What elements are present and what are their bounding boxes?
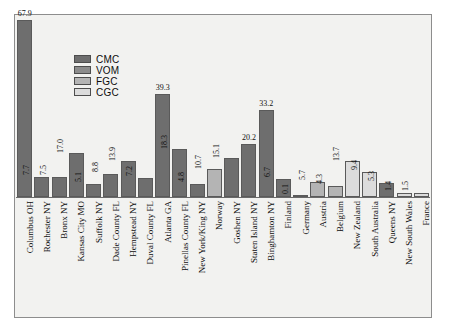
category-label-kansas-city-mo: Kansas City MO — [69, 199, 84, 317]
legend-swatch-icon — [74, 88, 91, 96]
category-label-text: New Zealand — [352, 201, 362, 249]
bar-norway[interactable]: 10.7 — [207, 14, 222, 197]
legend-swatch-icon — [74, 66, 91, 74]
category-label-goshen-ny: Goshen NY — [224, 199, 239, 317]
bar-austria[interactable]: 5.7 — [310, 14, 325, 197]
category-label-text: Atlanta GA — [163, 201, 173, 243]
bar-value-label: 6.7 — [263, 167, 283, 177]
category-axis-labels: Columbus OHRochester NYBronx NYKansas Ci… — [16, 199, 430, 317]
category-label-germany: Germany — [293, 199, 308, 317]
legend-item-vom[interactable]: VOM — [74, 65, 164, 75]
bar-france[interactable]: 1.5 — [414, 14, 429, 197]
category-label-hempstead-ny: Hempstead NY — [121, 199, 136, 317]
category-label-text: Staten Island NY — [249, 201, 259, 263]
bar-new-york-king-ny[interactable]: 4.8 — [190, 14, 205, 197]
category-label-text: Pinellas County FL — [180, 201, 190, 271]
bar-rect — [52, 177, 67, 197]
bar-rect — [328, 186, 343, 197]
category-label-pinellas-county-fl: Pinellas County FL — [172, 199, 187, 317]
category-label-text: South Australia — [370, 201, 380, 257]
bar-duval-county-fl[interactable]: 7.2 — [138, 14, 153, 197]
bar-value-label: 5.1 — [74, 172, 94, 182]
bar-series-container: 67.97.77.517.05.18.813.97.239.318.34.810… — [16, 14, 430, 197]
category-label-finland: Finland — [276, 199, 291, 317]
category-label-text: New York/King NY — [197, 201, 207, 273]
category-label-text: Rochester NY — [42, 201, 52, 252]
bar-rect — [414, 193, 429, 197]
category-label-text: Duval County FL — [145, 201, 155, 265]
category-label-south-australia: South Australia — [362, 199, 377, 317]
bar-value-label: 0.1 — [281, 184, 301, 194]
bar-value-label: 4.8 — [177, 172, 197, 182]
category-label-columbus-oh: Columbus OH — [17, 199, 32, 317]
bar-goshen-ny[interactable]: 15.1 — [224, 14, 239, 197]
bar-value-label: 67.9 — [18, 9, 32, 18]
category-label-binghamton-ny: Binghamton NY — [259, 199, 274, 317]
bar-value-label: 5.3 — [367, 171, 387, 181]
bar-value-label: 13.9 — [108, 147, 128, 161]
bar-bronx-ny[interactable]: 7.5 — [52, 14, 67, 197]
category-label-text: Belgium — [335, 201, 345, 232]
bar-value-label: 18.3 — [160, 135, 180, 149]
bar-value-label: 20.2 — [242, 133, 256, 142]
bar-rect — [241, 144, 256, 197]
bar-pinellas-county-fl[interactable]: 18.3 — [172, 14, 187, 197]
bar-kansas-city-mo[interactable]: 17.0 — [69, 14, 84, 197]
bar-queens-ny[interactable]: 5.3 — [379, 14, 394, 197]
legend-swatch-icon — [74, 77, 91, 85]
category-label-new-zealand: New Zealand — [345, 199, 360, 317]
bar-rect — [103, 174, 118, 197]
legend-label: CGC — [96, 87, 119, 98]
bar-value-label: 1.5 — [401, 181, 421, 191]
bar-atlanta-ga[interactable]: 39.3 — [155, 14, 170, 197]
category-label-text: Queens NY — [387, 201, 397, 243]
category-label-rochester-ny: Rochester NY — [34, 199, 49, 317]
bar-new-south-wales[interactable]: 1.4 — [397, 14, 412, 197]
category-label-text: France — [421, 201, 431, 226]
bar-staten-island-ny[interactable]: 20.2 — [241, 14, 256, 197]
legend-item-cmc[interactable]: CMC — [74, 54, 164, 64]
bar-finland[interactable]: 6.7 — [276, 14, 291, 197]
category-label-text: Dade County FL — [111, 201, 121, 262]
category-label-text: Kansas City MO — [76, 201, 86, 262]
category-label-france: France — [414, 199, 429, 317]
category-label-text: Suffolk NY — [94, 201, 104, 243]
legend-item-cgc[interactable]: CGC — [74, 87, 164, 97]
bar-belgium[interactable]: 4.3 — [328, 14, 343, 197]
bar-rect — [310, 182, 325, 197]
bar-rect — [190, 184, 205, 197]
category-label-text: Austria — [318, 201, 328, 228]
bar-rect — [138, 178, 153, 197]
x-axis-baseline — [16, 197, 430, 198]
bar-rect — [259, 110, 274, 197]
category-label-duval-county-fl: Duval County FL — [138, 199, 153, 317]
bar-value-label: 9.4 — [350, 160, 370, 170]
bar-rect — [34, 177, 49, 197]
legend-item-fgc[interactable]: FGC — [74, 76, 164, 86]
bar-value-label: 15.1 — [212, 144, 232, 158]
category-label-new-york-king-ny: New York/King NY — [190, 199, 205, 317]
bar-rect — [293, 195, 308, 197]
legend-label: VOM — [96, 65, 119, 76]
category-label-text: Goshen NY — [232, 201, 242, 244]
bar-south-australia[interactable]: 9.4 — [362, 14, 377, 197]
bar-dade-county-fl[interactable]: 8.8 — [103, 14, 118, 197]
category-label-text: Germany — [301, 201, 311, 235]
category-label-belgium: Belgium — [328, 199, 343, 317]
category-label-text: Hempstead NY — [128, 201, 138, 257]
bar-rect — [86, 184, 101, 197]
category-label-text: Binghamton NY — [266, 201, 276, 261]
category-label-bronx-ny: Bronx NY — [52, 199, 67, 317]
bar-value-label: 17.0 — [56, 139, 76, 153]
bar-value-label: 4.3 — [315, 174, 335, 184]
category-label-dade-county-fl: Dade County FL — [103, 199, 118, 317]
category-label-staten-island-ny: Staten Island NY — [241, 199, 256, 317]
category-label-text: New South Wales — [404, 201, 414, 265]
bar-value-label: 33.2 — [259, 99, 273, 108]
legend-label: FGC — [96, 76, 118, 87]
chart-legend: CMCVOMFGCCGC — [74, 54, 164, 98]
category-label-suffolk-ny: Suffolk NY — [86, 199, 101, 317]
bar-rect — [207, 169, 222, 197]
category-label-queens-ny: Queens NY — [379, 199, 394, 317]
category-label-text: Finland — [283, 201, 293, 229]
